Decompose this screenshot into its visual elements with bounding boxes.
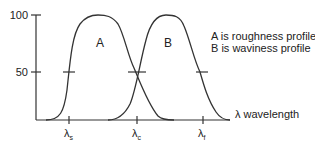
legend-line-b: B is waviness profile [211, 42, 311, 54]
y-tick-label-100: 100 [0, 9, 28, 21]
lambda-subscript: c [138, 134, 142, 141]
x-tick-label-lambda-c: λc [132, 127, 141, 144]
x-tick-label-lambda-s: λs [64, 127, 73, 144]
legend-line-a: A is roughness profile [211, 30, 315, 42]
curve-b-label: B [164, 37, 172, 49]
lambda-subscript: s [70, 134, 74, 141]
lambda-subscript: f [204, 134, 206, 141]
x-axis-label: λ wavelength [235, 108, 299, 120]
x-tick-label-lambda-f: λf [198, 127, 205, 144]
transmission-diagram [0, 0, 315, 145]
curve-a [46, 15, 174, 120]
curve-a-label: A [96, 37, 104, 49]
y-tick-label-50: 50 [0, 66, 28, 78]
